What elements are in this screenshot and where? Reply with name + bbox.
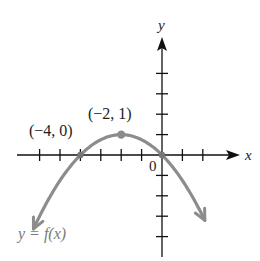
origin-label: 0 xyxy=(149,158,157,174)
x-axis xyxy=(17,150,240,160)
curve-point xyxy=(159,152,165,158)
parabola-curve xyxy=(34,135,205,229)
y-axis xyxy=(157,37,167,257)
curve-point xyxy=(77,152,83,158)
x-axis-label: x xyxy=(244,147,252,163)
vertex-label: (−2, 1) xyxy=(88,105,132,123)
y-axis-label: y xyxy=(156,17,165,33)
root-label: (−4, 0) xyxy=(29,122,73,140)
curve-point xyxy=(117,130,125,138)
parabola-graph: y x 0 (−2, 1) (−4, 0) y = f(x) xyxy=(0,0,260,261)
curve-label: y = f(x) xyxy=(16,225,66,243)
